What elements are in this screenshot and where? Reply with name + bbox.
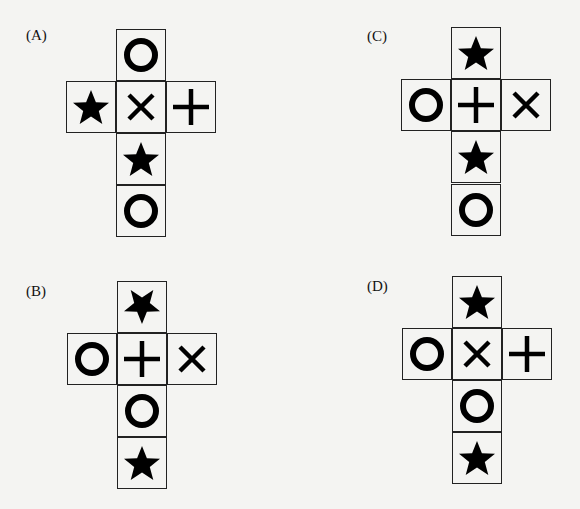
star-icon xyxy=(455,436,499,480)
cell-top xyxy=(117,281,167,333)
cell-center xyxy=(116,81,166,133)
cell-bottom xyxy=(452,432,502,484)
circle-icon xyxy=(120,389,164,433)
cell-below xyxy=(451,131,501,183)
cell-right xyxy=(166,81,216,133)
cell-center xyxy=(117,333,167,385)
cell-right xyxy=(502,328,552,380)
circle-icon xyxy=(455,384,499,428)
cell-below xyxy=(452,380,502,432)
cell-bottom xyxy=(116,185,166,237)
circle-icon xyxy=(119,189,163,233)
circle-icon xyxy=(119,33,163,77)
cell-below xyxy=(117,385,167,437)
cell-below xyxy=(116,133,166,185)
star-inverted-icon xyxy=(120,285,164,329)
option-label: (A) xyxy=(26,27,47,44)
cross-icon xyxy=(504,83,548,127)
cell-left xyxy=(66,81,116,133)
star-icon xyxy=(120,441,164,485)
plus-icon xyxy=(120,337,164,381)
cell-left xyxy=(401,79,451,131)
cell-top xyxy=(116,29,166,81)
cell-top xyxy=(451,27,501,79)
cell-bottom xyxy=(451,184,501,236)
cell-left xyxy=(67,333,117,385)
plus-icon xyxy=(169,85,213,129)
option-label: (B) xyxy=(26,283,46,300)
star-icon xyxy=(455,280,499,324)
plus-icon xyxy=(505,332,549,376)
star-icon xyxy=(454,135,498,179)
cell-bottom xyxy=(117,437,167,489)
cell-left xyxy=(402,328,452,380)
plus-icon xyxy=(454,83,498,127)
option-label: (D) xyxy=(367,278,388,295)
circle-icon xyxy=(404,83,448,127)
star-icon xyxy=(454,31,498,75)
circle-icon xyxy=(454,188,498,232)
cell-center xyxy=(451,79,501,131)
circle-icon xyxy=(405,332,449,376)
cell-top xyxy=(452,276,502,328)
cross-icon xyxy=(455,332,499,376)
star-icon xyxy=(119,137,163,181)
option-label: (C) xyxy=(367,28,387,45)
cell-center xyxy=(452,328,502,380)
circle-icon xyxy=(70,337,114,381)
cell-right xyxy=(167,333,217,385)
cell-right xyxy=(501,79,551,131)
star-icon xyxy=(69,85,113,129)
cross-icon xyxy=(170,337,214,381)
cross-icon xyxy=(119,85,163,129)
